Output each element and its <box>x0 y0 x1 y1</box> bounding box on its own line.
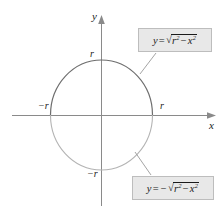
lower-eq-equals: = <box>152 183 160 194</box>
y-tick-negative-r: −r <box>87 169 98 179</box>
x-axis-label: x <box>209 120 214 131</box>
y-axis-label: y <box>92 11 97 22</box>
x-tick-negative-r: −r <box>38 101 49 111</box>
upper-callout-leader-line <box>140 53 156 74</box>
lower-eq-radicand: r2−x2 <box>173 182 199 194</box>
circle-equation-figure: y x r −r −r r y=√r2−x2 y=−√r2−x2 <box>0 0 222 222</box>
y-axis-arrowhead <box>98 15 105 24</box>
y-tick-positive-r: r <box>90 49 94 59</box>
lower-eq-x-exponent: 2 <box>195 181 198 188</box>
lower-eq-radical-sign: √ <box>168 182 174 193</box>
lower-equation-text: y=−√r2−x2 <box>147 183 199 194</box>
lower-callout-leader-line <box>135 152 151 175</box>
x-axis-arrowhead <box>207 112 216 119</box>
callout-lower-semicircle-equation: y=−√r2−x2 <box>132 176 214 200</box>
upper-eq-minus: − <box>180 35 188 46</box>
x-tick-positive-r: r <box>160 101 164 111</box>
upper-eq-radical-sign: √ <box>166 34 172 45</box>
lower-eq-negative-sign: − <box>160 183 168 194</box>
upper-eq-x-exponent: 2 <box>193 33 196 40</box>
upper-eq-radicand: r2−x2 <box>171 34 197 46</box>
upper-equation-text: y=√r2−x2 <box>153 35 197 46</box>
lower-eq-lhs: y <box>147 183 152 194</box>
callout-upper-semicircle-equation: y=√r2−x2 <box>138 28 212 52</box>
upper-eq-equals: = <box>158 35 166 46</box>
lower-eq-minus: − <box>182 183 190 194</box>
